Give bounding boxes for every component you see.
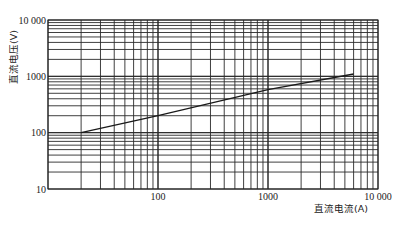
x-tick-label: 1000 [258, 191, 278, 202]
y-axis-label: 直流电压(V) [8, 30, 19, 84]
series-line [81, 74, 353, 133]
x-axis-label: 直流电流(A) [314, 203, 368, 214]
y-tick-label: 10 [36, 184, 46, 195]
x-axis-ticks: 100100010 000 [151, 191, 392, 202]
grid [48, 20, 378, 189]
y-tick-label: 100 [31, 127, 46, 138]
plot-frame [48, 20, 378, 189]
y-tick-label: 10 000 [19, 15, 47, 26]
x-tick-label: 10 000 [364, 191, 392, 202]
x-tick-label: 100 [151, 191, 166, 202]
y-axis-ticks: 10100100010 000 [19, 15, 47, 195]
y-tick-label: 1000 [26, 71, 46, 82]
log-log-chart: 10100100010 000 100100010 000 直流电压(V) 直流… [0, 0, 404, 228]
